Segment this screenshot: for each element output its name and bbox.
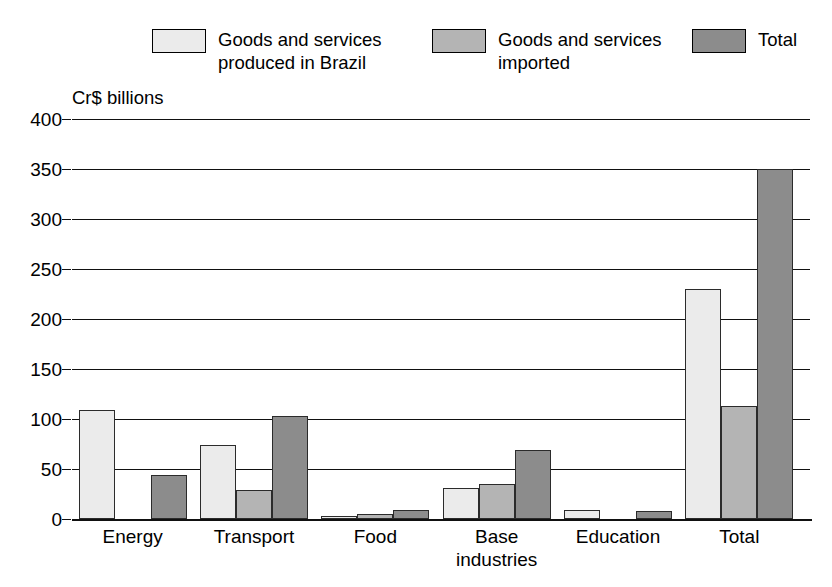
bar-imported <box>236 490 272 519</box>
y-axis-unit-title: Cr$ billions <box>72 88 164 108</box>
bar-produced <box>564 510 600 519</box>
y-tick-label: 50 <box>6 460 62 479</box>
bar-total <box>515 450 551 519</box>
legend-item-produced: Goods and services produced in Brazil <box>152 28 382 74</box>
x-category-label: Total <box>719 525 759 548</box>
y-tick-label: 100 <box>6 410 62 429</box>
y-tick-mark <box>62 119 71 120</box>
y-tick-label: 400 <box>6 110 62 129</box>
y-tick-mark <box>62 219 71 220</box>
chart-legend: Goods and services produced in Brazil Go… <box>0 22 832 80</box>
x-axis-baseline <box>72 519 812 521</box>
legend-label-total: Total <box>758 28 797 51</box>
bar-produced <box>79 410 115 519</box>
bars-layer <box>72 119 800 519</box>
y-tick-mark <box>62 169 71 170</box>
legend-swatch-total-icon <box>692 29 746 53</box>
y-tick-stub <box>800 369 810 370</box>
legend-label-produced: Goods and services produced in Brazil <box>218 28 382 74</box>
y-tick-mark <box>62 469 71 470</box>
y-tick-mark <box>62 269 71 270</box>
bar-produced <box>200 445 236 519</box>
bar-total <box>393 510 429 519</box>
legend-label-imported: Goods and services imported <box>498 28 662 74</box>
y-tick-mark <box>62 519 71 520</box>
legend-swatch-produced-icon <box>152 29 206 53</box>
x-axis-category-labels: EnergyTransportFoodBase industriesEducat… <box>72 525 812 585</box>
y-tick-stub <box>800 169 810 170</box>
y-tick-stub <box>800 469 810 470</box>
legend-item-total: Total <box>692 28 797 53</box>
y-tick-mark <box>62 369 71 370</box>
bar-imported <box>721 406 757 519</box>
y-tick-label: 250 <box>6 260 62 279</box>
x-category-label: Energy <box>103 525 163 548</box>
bar-total <box>151 475 187 519</box>
x-category-label: Education <box>576 525 661 548</box>
plot-area <box>72 119 800 519</box>
bar-total <box>757 169 793 519</box>
bar-total <box>636 511 672 519</box>
y-tick-mark <box>62 419 71 420</box>
y-tick-stub <box>800 319 810 320</box>
y-tick-label: 350 <box>6 160 62 179</box>
legend-item-imported: Goods and services imported <box>432 28 662 74</box>
x-category-label: Transport <box>214 525 295 548</box>
x-category-label: Base industries <box>456 525 537 571</box>
y-tick-label: 0 <box>6 510 62 529</box>
bar-produced <box>443 488 479 519</box>
y-tick-stub <box>800 119 810 120</box>
y-tick-stub <box>800 219 810 220</box>
chart-root: Goods and services produced in Brazil Go… <box>0 0 832 587</box>
y-tick-stub <box>800 269 810 270</box>
y-tick-stub <box>800 419 810 420</box>
bar-total <box>272 416 308 519</box>
y-tick-label: 300 <box>6 210 62 229</box>
x-category-label: Food <box>354 525 397 548</box>
y-tick-label: 150 <box>6 360 62 379</box>
y-tick-label: 200 <box>6 310 62 329</box>
legend-swatch-imported-icon <box>432 29 486 53</box>
bar-produced <box>685 289 721 519</box>
bar-imported <box>479 484 515 519</box>
y-tick-mark <box>62 319 71 320</box>
